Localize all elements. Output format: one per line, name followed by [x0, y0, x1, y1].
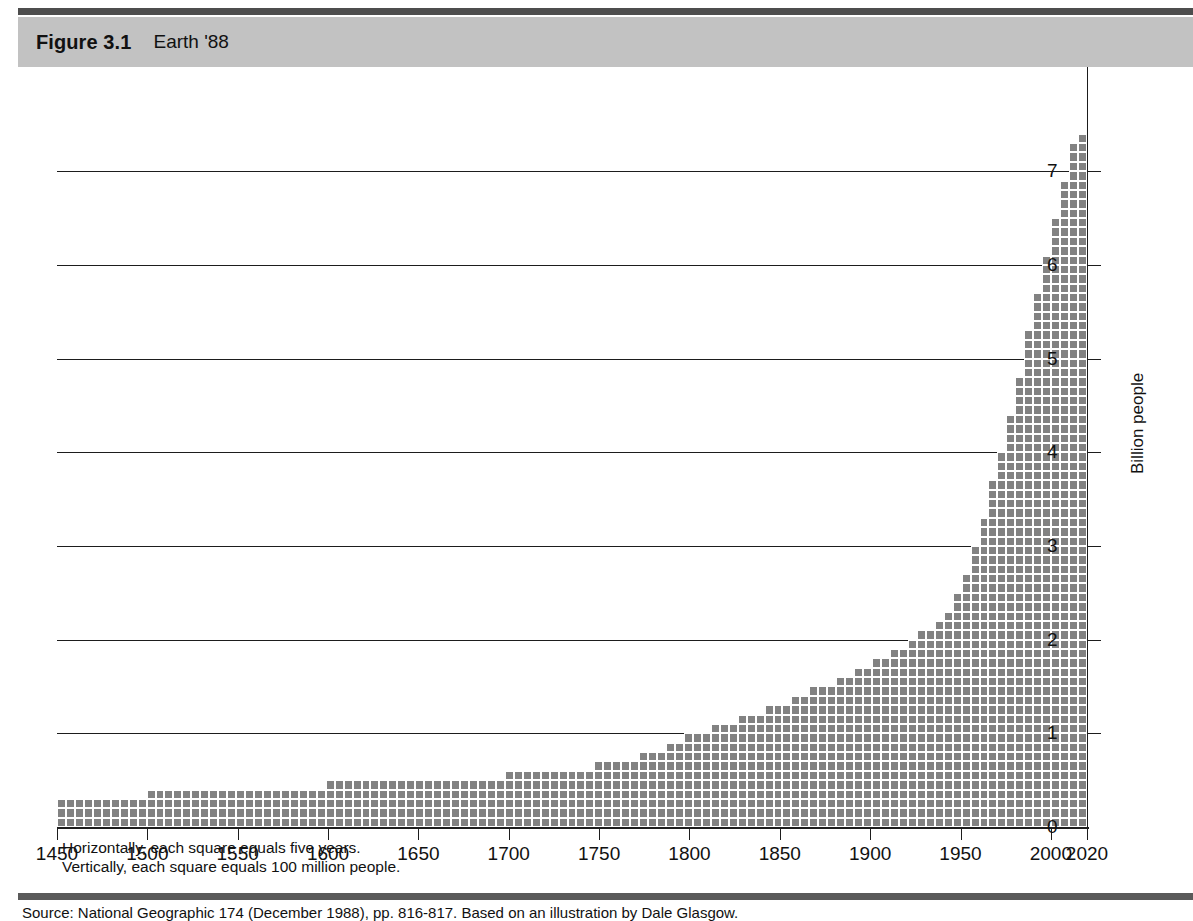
waffle-square: [505, 799, 514, 808]
waffle-square: [899, 780, 908, 789]
waffle-square: [1024, 443, 1033, 452]
waffle-square: [997, 508, 1006, 517]
waffle-square: [603, 799, 612, 808]
waffle-square: [944, 808, 953, 817]
waffle-square: [442, 780, 451, 789]
waffle-square: [1069, 499, 1078, 508]
waffle-square: [845, 686, 854, 695]
waffle-square: [1060, 490, 1069, 499]
waffle-square: [720, 771, 729, 780]
waffle-square: [1033, 668, 1042, 677]
waffle-square: [988, 630, 997, 639]
waffle-square: [1060, 696, 1069, 705]
waffle-square: [657, 808, 666, 817]
waffle-square: [147, 799, 156, 808]
waffle-square: [209, 799, 218, 808]
waffle-square: [1051, 321, 1060, 330]
waffle-square: [1060, 415, 1069, 424]
waffle-square: [881, 752, 890, 761]
waffle-square: [1060, 359, 1069, 368]
waffle-square: [702, 790, 711, 799]
waffle-square: [666, 743, 675, 752]
waffle-square: [908, 658, 917, 667]
waffle-square: [415, 799, 424, 808]
waffle-square: [1060, 190, 1069, 199]
waffle-square: [809, 761, 818, 770]
waffle-square: [191, 799, 200, 808]
waffle-column: [1033, 293, 1042, 827]
waffle-square: [971, 790, 980, 799]
waffle-square: [1033, 424, 1042, 433]
waffle-square: [344, 790, 353, 799]
waffle-square: [236, 790, 245, 799]
waffle-square: [809, 808, 818, 817]
waffle-square: [720, 799, 729, 808]
waffle-square: [1024, 349, 1033, 358]
waffle-square: [1069, 434, 1078, 443]
waffle-square: [1006, 593, 1015, 602]
waffle-square: [1015, 480, 1024, 489]
waffle-square: [809, 818, 818, 827]
waffle-square: [845, 733, 854, 742]
waffle-square: [1024, 565, 1033, 574]
waffle-square: [326, 808, 335, 817]
waffle-square: [988, 508, 997, 517]
waffle-square: [147, 808, 156, 817]
waffle-square: [1060, 368, 1069, 377]
waffle-square: [997, 771, 1006, 780]
waffle-square: [496, 780, 505, 789]
waffle-square: [541, 818, 550, 827]
waffle-square: [1069, 293, 1078, 302]
waffle-square: [872, 780, 881, 789]
waffle-square: [1033, 368, 1042, 377]
waffle-square: [1060, 593, 1069, 602]
waffle-square: [800, 724, 809, 733]
waffle-column: [944, 612, 953, 827]
waffle-square: [84, 808, 93, 817]
waffle-square: [1078, 368, 1087, 377]
waffle-square: [236, 799, 245, 808]
waffle-square: [353, 808, 362, 817]
waffle-square: [988, 799, 997, 808]
waffle-square: [1078, 574, 1087, 583]
waffle-square: [962, 574, 971, 583]
waffle-square: [182, 790, 191, 799]
waffle-square: [1069, 209, 1078, 218]
waffle-square: [1015, 668, 1024, 677]
waffle-column: [881, 658, 890, 827]
waffle-square: [1078, 705, 1087, 714]
waffle-square: [899, 733, 908, 742]
waffle-square: [729, 743, 738, 752]
waffle-square: [971, 686, 980, 695]
waffle-square: [200, 799, 209, 808]
waffle-square: [1033, 771, 1042, 780]
waffle-square: [1069, 593, 1078, 602]
waffle-square: [1078, 555, 1087, 564]
waffle-square: [845, 743, 854, 752]
waffle-square: [872, 733, 881, 742]
waffle-square: [693, 743, 702, 752]
chart-container: 1450150015501600165017001750180018501900…: [0, 70, 1193, 830]
waffle-column: [469, 780, 478, 827]
waffle-square: [997, 752, 1006, 761]
waffle-square: [971, 808, 980, 817]
waffle-square: [872, 761, 881, 770]
waffle-square: [747, 818, 756, 827]
waffle-square: [881, 705, 890, 714]
waffle-column: [182, 790, 191, 827]
waffle-square: [254, 808, 263, 817]
waffle-square: [944, 621, 953, 630]
waffle-square: [1006, 518, 1015, 527]
waffle-square: [774, 818, 783, 827]
waffle-square: [782, 771, 791, 780]
waffle-square: [272, 818, 281, 827]
waffle-square: [1033, 640, 1042, 649]
waffle-square: [800, 818, 809, 827]
waffle-square: [460, 790, 469, 799]
waffle-square: [1051, 471, 1060, 480]
waffle-square: [997, 808, 1006, 817]
waffle-column: [299, 790, 308, 827]
waffle-square: [1078, 565, 1087, 574]
waffle-square: [120, 799, 129, 808]
waffle-column: [263, 790, 272, 827]
